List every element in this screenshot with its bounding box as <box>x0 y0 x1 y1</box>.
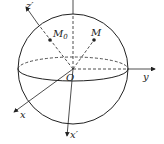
point-M0 <box>48 38 52 42</box>
point-M <box>92 38 96 42</box>
sphere-diagram: z′ M0 M O y x x′ <box>0 0 164 144</box>
label-M0: M0 <box>52 28 68 41</box>
label-z-prime: z′ <box>25 0 34 11</box>
label-x-prime: x′ <box>70 129 79 140</box>
label-x: x <box>20 109 26 120</box>
label-y: y <box>142 71 149 82</box>
om-line <box>73 40 94 69</box>
label-origin: O <box>66 72 74 83</box>
label-M: M <box>90 27 102 38</box>
